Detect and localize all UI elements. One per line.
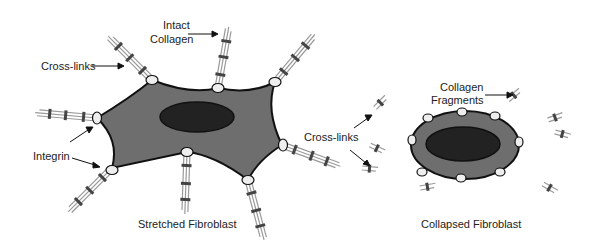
label-collapsed-fibroblast: Collapsed Fibroblast xyxy=(421,218,521,230)
label-collagen-fragments-2: Fragments xyxy=(431,94,484,106)
label-collagen-fragments-1: Collagen xyxy=(440,81,483,93)
stretched-nucleus xyxy=(160,102,234,132)
label-cross-links-middle: Cross-links xyxy=(304,131,359,143)
collapsed-nucleus xyxy=(426,127,500,161)
label-integrin: Integrin xyxy=(33,150,70,162)
label-collagen: Collagen xyxy=(150,33,193,45)
label-cross-links-left: Cross-links xyxy=(41,60,96,72)
label-stretched-fibroblast: Stretched Fibroblast xyxy=(138,218,236,230)
fibroblast-diagram: Intact Collagen Cross-links Integrin Str… xyxy=(0,0,607,246)
label-intact: Intact xyxy=(163,19,190,31)
